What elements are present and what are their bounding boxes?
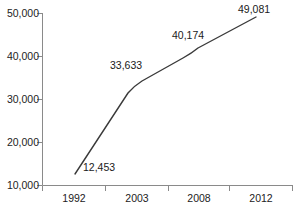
chart-plot-area xyxy=(0,0,299,209)
line-chart: 50,000 40,000 30,000 20,000 10,000 1992 … xyxy=(0,0,299,209)
y-axis-tick-label: 40,000 xyxy=(0,50,39,62)
y-axis-tick-label: 30,000 xyxy=(0,93,39,105)
x-axis-tick-label: 2008 xyxy=(177,192,221,204)
data-point-label: 33,633 xyxy=(110,59,142,71)
data-point-label: 12,453 xyxy=(83,161,115,173)
y-axis-tick-label: 10,000 xyxy=(0,179,39,191)
data-series-line xyxy=(75,17,256,174)
y-axis-tick-label: 50,000 xyxy=(0,7,39,19)
y-axis-tick-label: 20,000 xyxy=(0,136,39,148)
x-axis-tick-label: 2003 xyxy=(115,192,159,204)
x-axis-tick-label: 2012 xyxy=(239,192,283,204)
data-point-label: 40,174 xyxy=(172,29,204,41)
x-axis-tick-label: 1992 xyxy=(52,192,96,204)
data-point-label: 49,081 xyxy=(238,3,270,15)
x-axis-ticks xyxy=(43,186,293,192)
